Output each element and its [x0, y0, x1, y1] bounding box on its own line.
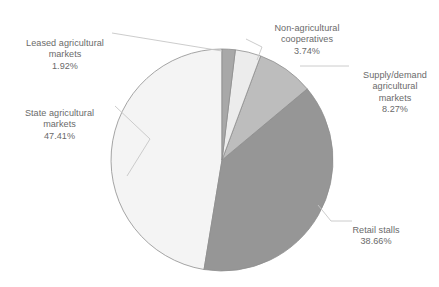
leader-line-leased-agricultural-markets [112, 33, 222, 51]
pie-slice-state-agricultural-markets[interactable] [111, 49, 222, 270]
pie-chart-canvas [0, 0, 439, 287]
pie-chart: Leased agricultural markets 1.92% State … [0, 0, 439, 287]
pie-slices [111, 49, 333, 271]
leader-line-retail-stalls [318, 205, 352, 221]
